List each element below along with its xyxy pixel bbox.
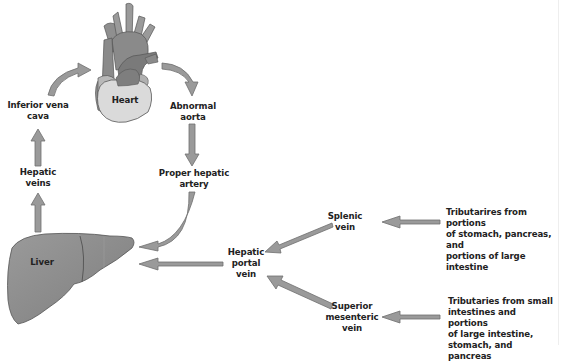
page-edge-divider	[558, 0, 559, 345]
arrow-portal-vein-to-liver	[139, 258, 223, 270]
arrow-liver-to-hepatic-veins	[31, 193, 45, 232]
label-splenic-vein: Splenic vein	[325, 211, 365, 233]
arrow-heart-to-aorta	[162, 63, 198, 96]
label-abnormal-aorta: Abnormal aorta	[166, 101, 220, 123]
arrow-tributaries-to-splenic	[382, 216, 440, 228]
label-proper-hepatic-artery: Proper hepatic artery	[158, 168, 230, 190]
arrow-hepatic-veins-to-ivc	[31, 129, 45, 166]
liver-shape	[8, 233, 135, 324]
label-hepatic-portal-vein: Hepatic portal vein	[226, 247, 266, 280]
arrows	[31, 63, 440, 323]
label-liver: Liver	[28, 257, 56, 268]
liver-illustration	[8, 233, 135, 324]
label-inferior-vena-cava: Inferior vena cava	[4, 100, 72, 122]
arrow-aorta-to-hepatic-artery	[185, 124, 199, 166]
arrow-tributaries-to-mesenteric	[382, 311, 440, 323]
label-hepatic-veins: Hepatic veins	[14, 167, 62, 189]
arrow-hepatic-artery-to-liver	[139, 192, 195, 251]
label-tributaries-splenic: Tributarires from portions of stomach, p…	[446, 207, 561, 273]
arrow-splenic-to-portal	[265, 223, 333, 253]
label-tributaries-mesenteric: Tributaries from small intestines and po…	[448, 296, 558, 362]
arrow-ivc-to-heart	[48, 63, 91, 96]
label-superior-mesenteric-vein: Superior mesenteric vein	[324, 301, 380, 334]
label-heart: Heart	[110, 95, 140, 106]
